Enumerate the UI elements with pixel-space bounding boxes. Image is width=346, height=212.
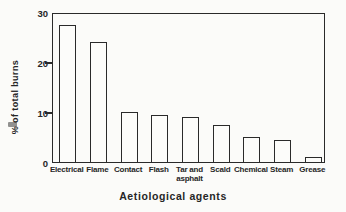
x-tick-label-grease: Grease (299, 166, 325, 175)
x-tick-label-scald: Scald (210, 166, 230, 175)
x-tick-label-chemical: Chemical (234, 166, 268, 175)
scan-smudge-artifact (8, 122, 17, 127)
x-labels: ElectricalFlameContactFlashTar and aspha… (0, 166, 346, 188)
bar-flame (90, 42, 107, 162)
x-tick-label-flash: Flash (149, 166, 169, 175)
y-tick-mark-20 (45, 62, 52, 64)
bar-steam (274, 140, 291, 163)
plot-area (52, 13, 325, 163)
y-tick-mark-10 (45, 112, 52, 114)
x-axis-title: Aetiological agents (119, 190, 227, 202)
burns-aetiology-bar-chart: % of total burns ElectricalFlameContactF… (0, 0, 346, 212)
x-tick-label-tar-and-asphalt: Tar and asphalt (176, 166, 203, 183)
bar-contact (121, 112, 138, 162)
x-tick-label-flame: Flame (86, 166, 108, 175)
bar-scald (213, 125, 230, 163)
y-tick-label-30: 30 (22, 8, 48, 19)
bar-flash (151, 115, 168, 163)
x-tick-label-contact: Contact (114, 166, 142, 175)
bar-tar-and-asphalt (182, 117, 199, 162)
bar-electrical (59, 25, 76, 163)
x-tick-label-steam: Steam (270, 166, 293, 175)
y-tick-label-0: 0 (22, 158, 48, 169)
bar-grease (305, 157, 322, 162)
bar-chemical (243, 137, 260, 162)
x-tick-label-electrical: Electrical (50, 166, 84, 175)
